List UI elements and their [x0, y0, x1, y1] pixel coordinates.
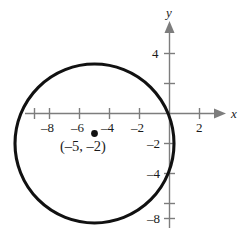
center-point-dot [91, 130, 98, 137]
x-axis-arrow-icon [214, 109, 226, 119]
y-axis-label: y [166, 6, 172, 19]
y-axis-arrow-icon [165, 21, 175, 33]
coordinate-plane-svg [0, 0, 251, 239]
x-tick-label-minus6: –6 [71, 121, 84, 134]
x-tick-label-minus4: –4 [101, 121, 114, 134]
y-tick-label-minus8: –8 [147, 212, 160, 225]
x-tick-label-minus2: –2 [131, 121, 144, 134]
y-tick-label-plus4: 4 [152, 47, 159, 60]
x-tick-label-minus8: –8 [41, 121, 54, 134]
x-axis-label: x [231, 107, 237, 120]
x-tick-label-plus2: 2 [196, 121, 203, 134]
y-tick-label-minus2: –2 [147, 137, 160, 150]
center-point-label: (–5, –2) [60, 139, 106, 154]
y-tick-label-minus4: –4 [147, 167, 160, 180]
circle-graph-figure: –8 –6 –4 –2 2 4 –2 –4 –8 x y (–5, –2) [0, 0, 251, 239]
